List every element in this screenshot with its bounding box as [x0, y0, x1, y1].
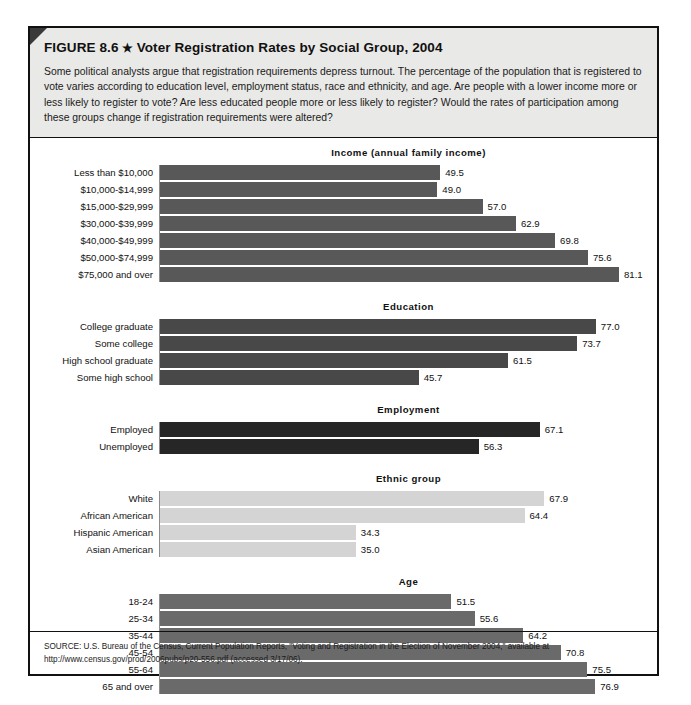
chart-bar	[160, 679, 595, 694]
chart-bar	[160, 508, 525, 523]
chart-category-label: Unemployed	[30, 439, 153, 454]
chart-category-label: $50,000-$74,999	[30, 250, 153, 265]
chart-bar-row: $40,000-$49,99969.8	[30, 233, 657, 248]
chart-bar	[160, 594, 451, 609]
chart-bar	[160, 542, 356, 557]
chart-bar-row: Asian American35.0	[30, 542, 657, 557]
chart-bar-value: 77.0	[596, 319, 620, 334]
figure-caption: Some political analysts argue that regis…	[44, 64, 643, 125]
chart-category-label: $40,000-$49,999	[30, 233, 153, 248]
chart-bar-value: 49.0	[437, 182, 461, 197]
chart-group-title: Education	[30, 301, 657, 312]
chart-bar-row: $75,000 and over81.1	[30, 267, 657, 282]
chart-bar-value: 51.5	[451, 594, 475, 609]
chart-bar	[160, 611, 475, 626]
chart-bar-row: White67.9	[30, 491, 657, 506]
chart-bar	[160, 165, 440, 180]
chart-bar-row: African American64.4	[30, 508, 657, 523]
chart-bar	[160, 439, 479, 454]
chart-bar-value: 61.5	[508, 353, 532, 368]
chart-bar	[160, 525, 356, 540]
chart-group-title: Age	[30, 576, 657, 587]
chart-category-label: $15,000-$29,999	[30, 199, 153, 214]
figure-source-note: SOURCE: U.S. Bureau of the Census, Curre…	[30, 631, 657, 674]
chart-category-label: High school graduate	[30, 353, 153, 368]
figure-title: FIGURE 8.6★Voter Registration Rates by S…	[44, 40, 643, 55]
star-icon: ★	[122, 41, 133, 55]
chart-category-label: 65 and over	[30, 679, 153, 694]
chart-category-label: Employed	[30, 422, 153, 437]
chart-group-title: Ethnic group	[30, 473, 657, 484]
chart-category-label: College graduate	[30, 319, 153, 334]
chart-bar	[160, 199, 483, 214]
chart-bar-value: 56.3	[479, 439, 503, 454]
chart-group-rows: White67.9African American64.4Hispanic Am…	[30, 491, 657, 557]
chart-bar-value: 55.6	[475, 611, 499, 626]
chart-bar	[160, 491, 544, 506]
chart-category-label: Less than $10,000	[30, 165, 153, 180]
figure-title-text: Voter Registration Rates by Social Group…	[137, 40, 443, 55]
chart-category-label: Some college	[30, 336, 153, 351]
chart-bar-row: Hispanic American34.3	[30, 525, 657, 540]
chart-bar-value: 49.5	[440, 165, 464, 180]
chart-bar-value: 73.7	[577, 336, 601, 351]
chart-bar-row: Some high school45.7	[30, 370, 657, 385]
chart-bar-value: 45.7	[419, 370, 443, 385]
chart-category-label: White	[30, 491, 153, 506]
chart-bar	[160, 319, 596, 334]
chart-category-label: 25-34	[30, 611, 153, 626]
corner-fold-decoration	[30, 28, 47, 45]
chart-bar-value: 75.6	[588, 250, 612, 265]
chart-bar-value: 67.1	[540, 422, 564, 437]
chart-category-label: $75,000 and over	[30, 267, 153, 282]
chart-bar	[160, 216, 516, 231]
chart-bar-value: 76.9	[595, 679, 619, 694]
chart-bar-value: 81.1	[619, 267, 643, 282]
chart-category-label: Asian American	[30, 542, 153, 557]
chart-bar-row: Unemployed56.3	[30, 439, 657, 454]
chart-group-rows: Employed67.1Unemployed56.3	[30, 422, 657, 454]
chart-bar-row: College graduate77.0	[30, 319, 657, 334]
chart-bar	[160, 233, 555, 248]
chart-category-label: $10,000-$14,999	[30, 182, 153, 197]
chart-category-label: $30,000-$39,999	[30, 216, 153, 231]
chart-bar-row: 65 and over76.9	[30, 679, 657, 694]
chart-bar-value: 62.9	[516, 216, 540, 231]
chart-bar-row: Employed67.1	[30, 422, 657, 437]
figure-panel: FIGURE 8.6★Voter Registration Rates by S…	[28, 26, 659, 676]
chart-group-title: Employment	[30, 404, 657, 415]
chart-bar-value: 67.9	[544, 491, 568, 506]
chart-bar	[160, 336, 577, 351]
chart-category-label: Some high school	[30, 370, 153, 385]
chart-bar-value: 64.4	[525, 508, 549, 523]
chart-bar-row: Some college73.7	[30, 336, 657, 351]
chart-bar	[160, 250, 588, 265]
chart-group-rows: Less than $10,00049.5$10,000-$14,99949.0…	[30, 165, 657, 282]
chart-bar	[160, 182, 437, 197]
chart-bar-row: 25-3455.6	[30, 611, 657, 626]
chart-bar-row: $15,000-$29,99957.0	[30, 199, 657, 214]
chart-bar	[160, 267, 619, 282]
chart-bar	[160, 370, 419, 385]
chart-bar	[160, 353, 508, 368]
figure-number: FIGURE 8.6	[44, 40, 119, 55]
chart-bar-row: $50,000-$74,99975.6	[30, 250, 657, 265]
chart-group-title: Income (annual family income)	[30, 147, 657, 158]
chart-bar-value: 34.3	[356, 525, 380, 540]
chart-category-label: Hispanic American	[30, 525, 153, 540]
chart-group-income: Income (annual family income)Less than $…	[30, 138, 657, 288]
chart-plot-area: Income (annual family income)Less than $…	[30, 138, 657, 700]
chart-group-ethnic: Ethnic groupWhite67.9African American64.…	[30, 460, 657, 563]
chart-bar-row: 18-2451.5	[30, 594, 657, 609]
chart-bar-value: 57.0	[483, 199, 507, 214]
chart-bar-row: Less than $10,00049.5	[30, 165, 657, 180]
chart-bar-value: 69.8	[555, 233, 579, 248]
chart-group-rows: College graduate77.0Some college73.7High…	[30, 319, 657, 385]
chart-category-label: 18-24	[30, 594, 153, 609]
chart-group-education: EducationCollege graduate77.0Some colleg…	[30, 288, 657, 391]
figure-header: FIGURE 8.6★Voter Registration Rates by S…	[30, 28, 657, 138]
chart-bar	[160, 422, 540, 437]
chart-bar-row: $30,000-$39,99962.9	[30, 216, 657, 231]
chart-bar-row: $10,000-$14,99949.0	[30, 182, 657, 197]
chart-bar-value: 35.0	[356, 542, 380, 557]
